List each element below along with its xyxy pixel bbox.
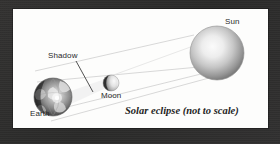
label-shadow: Shadow — [48, 52, 78, 60]
label-moon: Moon — [101, 92, 121, 100]
eclipse-diagram-screenshot: Sun Shadow Moon Earth Solar eclipse (not… — [0, 0, 280, 144]
moon-body — [102, 75, 119, 92]
diagram-panel: Sun Shadow Moon Earth Solar eclipse (not… — [13, 9, 268, 128]
label-sun: Sun — [225, 18, 240, 26]
label-earth: Earth — [30, 110, 50, 118]
sun-body — [190, 26, 244, 80]
diagram-stage: Sun Shadow Moon Earth Solar eclipse (not… — [13, 9, 268, 128]
figure-caption: Solar eclipse (not to scale) — [125, 106, 239, 117]
